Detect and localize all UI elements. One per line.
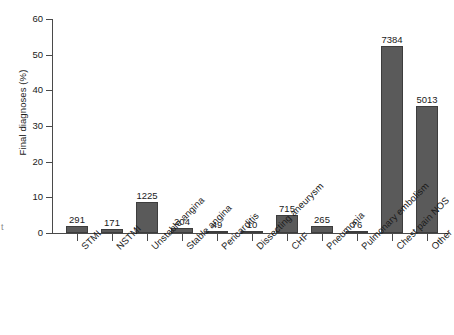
bar-value-label: 5013 — [416, 94, 437, 105]
y-axis-tick-label: 60 — [32, 13, 43, 24]
x-axis-tick — [392, 234, 393, 241]
bar-value-label: 171 — [104, 217, 120, 228]
x-axis-tick — [322, 234, 323, 241]
y-axis-tick: 50 — [46, 55, 52, 56]
y-axis-tick: 0 — [46, 233, 52, 234]
x-axis-tick — [287, 234, 288, 241]
y-axis-tick-label: 40 — [32, 84, 43, 95]
x-axis-tick — [217, 234, 218, 241]
y-axis-tick: 30 — [46, 126, 52, 127]
y-axis-line — [52, 19, 53, 234]
y-axis-tick: 20 — [46, 162, 52, 163]
bar: 291 — [66, 226, 88, 233]
bar-chart-figure: t Final diagnoses (%) 0102030405060 2911… — [0, 0, 454, 335]
y-axis-tick: 40 — [46, 90, 52, 91]
bar-value-label: 7384 — [381, 34, 402, 45]
y-axis-tick-label: 20 — [32, 156, 43, 167]
bar: 265 — [311, 226, 333, 233]
y-axis-tick-label: 50 — [32, 49, 43, 60]
x-axis-tick — [357, 234, 358, 241]
x-axis-tick — [77, 234, 78, 241]
y-axis-tick-label: 10 — [32, 191, 43, 202]
y-axis-tick: 10 — [46, 197, 52, 198]
bar: 171 — [101, 229, 123, 233]
x-axis-tick — [147, 234, 148, 241]
x-axis-tick — [252, 234, 253, 241]
left-margin-text-fragment: t — [1, 222, 4, 232]
y-axis-tick: 60 — [46, 19, 52, 20]
bar-value-label: 1225 — [136, 190, 157, 201]
x-axis-tick — [427, 234, 428, 241]
x-axis-tick — [182, 234, 183, 241]
y-axis-tick-label: 0 — [38, 227, 43, 238]
y-axis-tick-label: 30 — [32, 120, 43, 131]
bar-value-label: 291 — [69, 214, 85, 225]
x-axis-tick — [112, 234, 113, 241]
bar-value-label: 265 — [314, 214, 330, 225]
y-axis-title: Final diagnoses (%) — [17, 58, 28, 168]
